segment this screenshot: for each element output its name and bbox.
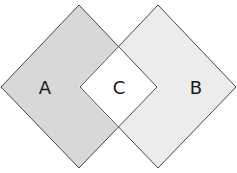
region-label-a: A (39, 79, 51, 97)
region-label-c: C (113, 79, 126, 97)
region-label-b: B (190, 79, 202, 97)
venn-diamond-diagram: A B C (0, 0, 237, 173)
